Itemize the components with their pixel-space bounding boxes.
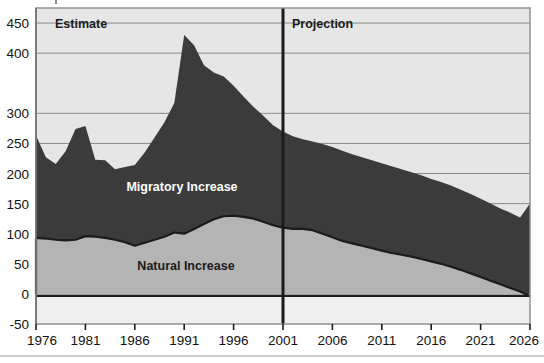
x-tick-label-2001: 2001 [268,333,298,348]
y-tick-label-0: 0 [21,287,29,302]
x-tick-label-2021: 2021 [466,333,496,348]
x-tick-label-2016: 2016 [416,333,446,348]
y-tick-label-450: 450 [6,16,29,31]
y-tick-label-200: 200 [6,167,29,182]
y-tick-label-150: 150 [6,197,29,212]
y-tick-label-300: 300 [6,106,29,121]
x-tick-label-2011: 2011 [367,333,396,348]
x-tick-label-1981: 1981 [70,333,100,348]
x-tick-label-1986: 1986 [120,333,150,348]
x-tick-label-2006: 2006 [317,333,347,348]
natural-increase-label: Natural Increase [137,259,234,273]
x-tick-label-1976: 1976 [27,333,57,348]
x-axis-tick-labels: 1976198119861991199620012006201120162021… [27,333,539,348]
y-tick-label-50: 50 [14,257,29,272]
chart-container: -50050100150200250300400450 197619811986… [0,0,544,363]
y-tick-label--50: -50 [9,317,29,332]
population-growth-area-chart: -50050100150200250300400450 197619811986… [0,0,544,363]
estimate-period-label: Estimate [55,17,107,31]
migratory-increase-label: Migratory Increase [126,180,237,194]
x-tick-label-2026: 2026 [509,333,539,348]
x-tick-label-1991: 1991 [169,333,199,348]
x-tick-label-1996: 1996 [219,333,249,348]
y-tick-label-100: 100 [6,227,29,242]
projection-period-label: Projection [292,17,353,31]
y-tick-label-400: 400 [6,46,29,61]
x-axis-ticks [36,324,530,330]
y-tick-label-250: 250 [6,136,29,151]
y-axis-tick-labels: -50050100150200250300400450 [6,16,29,332]
